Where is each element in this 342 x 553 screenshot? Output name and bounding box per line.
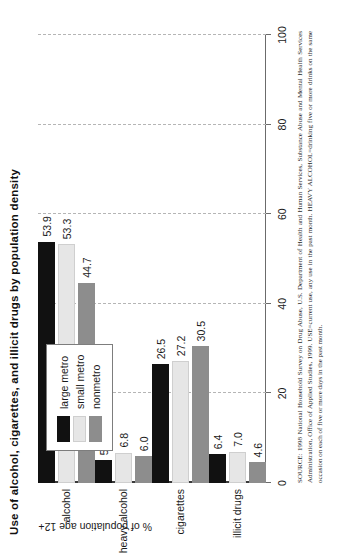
bar — [115, 453, 132, 483]
bar-value-label: 44.7 — [81, 257, 93, 277]
category-label: cigarettes — [174, 489, 186, 535]
bar — [95, 460, 112, 483]
bar — [249, 462, 266, 483]
bar-value-label: 4.6 — [252, 443, 264, 458]
chart-legend: large metro small metro nonmetro — [46, 344, 113, 451]
axis-tick-label: 20 — [276, 388, 288, 400]
category-label: illicit drugs — [231, 489, 243, 538]
legend-swatch-icon — [57, 416, 70, 442]
category-label: heavy alcohol — [117, 489, 129, 553]
gridline — [38, 124, 266, 125]
chart-title: Use of alcohol, cigarettes, and illicit … — [8, 169, 20, 535]
axis-tick — [266, 213, 271, 214]
gridline — [38, 213, 266, 214]
gridline — [38, 34, 266, 35]
bar — [135, 456, 152, 483]
axis-tick — [266, 34, 271, 35]
bar-value-label: 53.3 — [61, 219, 73, 239]
bar-value-label: 6.8 — [118, 433, 130, 448]
bar-value-label: 7.0 — [232, 432, 244, 447]
bar-value-label: 26.5 — [155, 339, 167, 359]
bar — [172, 361, 189, 483]
axis-tick — [266, 482, 271, 483]
axis-tick-label: 0 — [276, 480, 288, 486]
bar — [229, 452, 246, 483]
bar — [209, 454, 226, 483]
axis-tick-label: 40 — [276, 298, 288, 310]
axis-tick-label: 100 — [276, 26, 288, 44]
x-axis-line — [265, 35, 266, 483]
axis-tick — [266, 124, 271, 125]
bar-value-label: 6.4 — [212, 435, 224, 450]
axis-tick — [266, 303, 271, 304]
legend-swatch-icon — [73, 416, 86, 442]
bar-value-label: 53.9 — [41, 216, 53, 236]
axis-tick-label: 60 — [276, 208, 288, 220]
bar — [152, 364, 169, 483]
legend-item-large-metro: large metro — [57, 355, 70, 442]
bar — [192, 346, 209, 483]
category-label: alcohol — [60, 489, 72, 522]
legend-item-nonmetro: nonmetro — [89, 355, 102, 442]
legend-item-label: nonmetro — [90, 365, 102, 409]
bar-value-label: 6.0 — [138, 437, 150, 452]
y-axis-label: % of population age 12+ — [38, 521, 152, 533]
legend-item-small-metro: small metro — [73, 355, 86, 442]
source-note: SOURCE: 1998 National Household Survey o… — [296, 31, 326, 483]
legend-item-label: small metro — [74, 355, 86, 409]
legend-item-label: large metro — [58, 356, 70, 409]
legend-swatch-icon — [89, 416, 102, 442]
bar-value-label: 27.2 — [175, 336, 187, 356]
axis-tick — [266, 392, 271, 393]
axis-tick-label: 80 — [276, 119, 288, 131]
bar-value-label: 30.5 — [195, 321, 207, 341]
